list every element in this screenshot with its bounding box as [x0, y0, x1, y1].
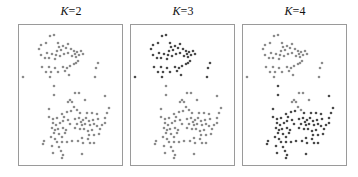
data-point — [303, 128, 306, 131]
data-point — [150, 48, 153, 51]
data-point — [87, 138, 90, 141]
title-eq: =2 — [69, 4, 82, 18]
data-point — [305, 137, 308, 140]
data-point — [79, 128, 82, 131]
data-point — [181, 123, 184, 126]
data-point — [92, 119, 95, 122]
data-point — [91, 129, 94, 132]
data-point — [294, 110, 297, 113]
data-point — [286, 45, 289, 48]
data-point — [49, 76, 52, 79]
data-point — [166, 67, 169, 70]
data-point — [287, 116, 290, 119]
data-point — [160, 116, 163, 119]
data-point — [161, 35, 164, 38]
data-point — [40, 54, 43, 57]
data-point — [282, 46, 285, 49]
data-point — [108, 107, 111, 110]
data-point — [62, 127, 65, 130]
data-point — [325, 124, 328, 127]
data-point — [52, 118, 55, 121]
data-point — [67, 101, 70, 104]
data-point — [319, 67, 322, 70]
data-point — [62, 45, 65, 48]
data-point — [275, 53, 278, 56]
data-point — [179, 101, 182, 104]
data-point — [54, 129, 57, 132]
data-point — [45, 42, 48, 45]
data-point — [285, 157, 288, 160]
data-point — [190, 54, 193, 57]
data-point — [290, 141, 293, 144]
data-point — [298, 127, 301, 130]
data-point — [317, 142, 320, 145]
data-point — [94, 76, 97, 79]
data-point — [58, 46, 61, 49]
data-point — [286, 120, 289, 123]
data-point — [181, 99, 184, 102]
data-point — [158, 52, 161, 55]
data-point — [272, 108, 275, 111]
data-point — [207, 67, 210, 70]
data-point — [77, 60, 80, 63]
data-point — [295, 140, 298, 143]
data-point — [71, 140, 74, 143]
data-point — [200, 134, 203, 137]
data-point — [64, 132, 67, 135]
data-point — [49, 35, 52, 38]
data-point — [164, 118, 167, 121]
data-point — [185, 106, 188, 109]
data-point — [293, 123, 296, 126]
data-point — [315, 112, 318, 115]
data-point — [76, 51, 79, 54]
data-point — [280, 117, 283, 120]
data-point — [291, 101, 294, 104]
data-point — [191, 128, 194, 131]
data-point — [307, 128, 310, 131]
data-point — [61, 157, 64, 160]
data-point — [197, 117, 200, 120]
data-point — [262, 48, 265, 51]
data-point — [193, 124, 196, 127]
data-point — [272, 57, 275, 60]
data-point — [178, 141, 181, 144]
data-point — [81, 137, 84, 140]
data-point — [186, 118, 189, 121]
data-point — [286, 127, 289, 130]
data-point — [291, 52, 294, 55]
data-point — [277, 132, 280, 135]
data-point — [195, 128, 198, 131]
data-point — [48, 57, 51, 60]
data-point — [88, 134, 91, 137]
data-point — [96, 113, 99, 116]
data-point — [166, 129, 169, 132]
data-point — [216, 122, 219, 125]
data-point — [189, 140, 192, 143]
scatter-panel-k3 — [130, 24, 235, 166]
data-point — [171, 122, 174, 125]
scatter-plot — [243, 25, 348, 167]
data-point — [67, 119, 70, 122]
data-point — [40, 44, 43, 47]
data-point — [71, 101, 74, 104]
data-point — [166, 58, 169, 61]
data-point — [81, 153, 84, 156]
data-point — [170, 133, 173, 136]
data-point — [173, 157, 176, 160]
data-point — [173, 141, 176, 144]
data-point — [276, 152, 279, 155]
data-point — [96, 125, 99, 128]
data-point — [104, 95, 107, 98]
data-point — [206, 76, 209, 79]
data-point — [169, 71, 172, 74]
data-point — [177, 129, 180, 132]
data-point — [54, 58, 57, 61]
data-point — [306, 142, 309, 145]
data-point — [55, 54, 58, 57]
data-point — [81, 124, 84, 127]
data-point — [290, 111, 293, 114]
data-point — [276, 122, 279, 125]
data-point — [185, 50, 188, 53]
data-point — [51, 53, 54, 56]
data-point — [53, 34, 56, 37]
